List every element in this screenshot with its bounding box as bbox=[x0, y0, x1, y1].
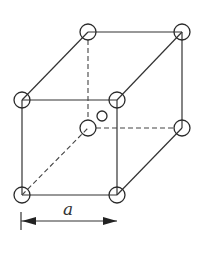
dimension-label: a bbox=[63, 199, 73, 219]
edge-top-left bbox=[22, 32, 88, 100]
edge-bottom-right bbox=[117, 128, 182, 195]
unit-cell-diagram: a bbox=[0, 0, 209, 257]
hidden-edges bbox=[22, 40, 174, 195]
arrowhead-left-icon bbox=[22, 217, 36, 225]
arrowhead-right-icon bbox=[103, 217, 117, 225]
dimension-arrow: a bbox=[21, 199, 117, 230]
edge-top-right bbox=[117, 32, 182, 100]
atom-back-bottom-left bbox=[80, 120, 96, 136]
edge-bottom-left bbox=[22, 128, 88, 195]
atom-body-center bbox=[97, 111, 107, 121]
